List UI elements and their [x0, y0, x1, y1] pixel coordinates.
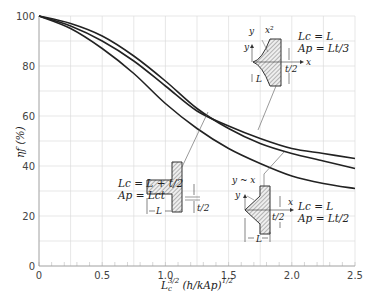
tri-ap-label: Ap = Lt/2 — [297, 212, 350, 224]
para-t2-label: t/2 — [285, 64, 298, 74]
tri-y-label: y — [234, 190, 241, 200]
y-tick-label: 0 — [29, 261, 35, 272]
para-L-label: L — [255, 74, 262, 84]
y-tick-label: 20 — [22, 211, 35, 222]
tri-L-label: L — [255, 234, 262, 244]
para-y2-label: y — [243, 42, 250, 52]
x-tick-label: 0 — [36, 270, 42, 281]
rect-L-label: L — [155, 206, 162, 216]
y-tick-label: 100 — [16, 11, 35, 22]
rect-ap-label: Ap = Lct — [117, 189, 166, 201]
tri-lc-label: Lc = L — [297, 200, 333, 212]
tri-t2-label: t/2 — [272, 212, 285, 222]
rect-lc-label: Lc = L + t/2 — [117, 177, 184, 189]
para-x-label: x — [306, 57, 311, 67]
x-tick-label: 0.5 — [94, 270, 110, 281]
fin-efficiency-chart: 00.51.01.52.02.5020406080100 Lc = L + t/… — [0, 0, 371, 303]
y-tick-label: 80 — [22, 61, 35, 72]
para-y-label: y — [248, 26, 255, 36]
x-axis-title: Lc3/2 (h/kAp)1/2 — [160, 277, 233, 293]
rect-t2-label: t/2 — [197, 203, 210, 213]
para-curve-label: x² — [265, 25, 274, 35]
para-lc-label: Lc = L — [297, 30, 333, 42]
x-tick-label: 2.5 — [347, 270, 363, 281]
x-tick-label: 2.0 — [284, 270, 300, 281]
para-ap-label: Ap = Lt/3 — [297, 42, 350, 54]
tri-curve-label: y ~ x — [231, 175, 255, 185]
svg-text:Lc3/2 (h/kAp)1/2: Lc3/2 (h/kAp)1/2 — [160, 277, 233, 293]
y-tick-label: 60 — [22, 111, 35, 122]
tri-x-label: x — [288, 197, 293, 207]
y-tick-label: 40 — [22, 161, 35, 172]
y-axis-title: ηf (%) — [14, 126, 26, 158]
